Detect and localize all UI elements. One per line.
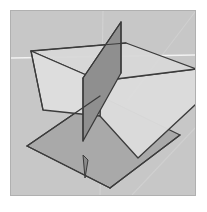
figure-container <box>0 0 207 212</box>
three-planes-diagram <box>0 0 207 212</box>
